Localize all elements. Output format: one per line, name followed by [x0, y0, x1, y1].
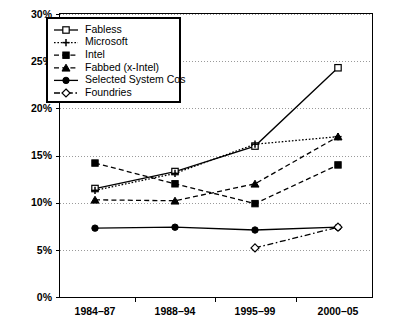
data-point-marker — [92, 225, 98, 231]
y-axis-tick-label: 15% — [31, 149, 53, 161]
data-point-marker — [172, 224, 178, 230]
x-axis-tick-label: 2000–05 — [318, 305, 359, 317]
chart-container: 0%5%10%15%20%25%30% 1984–871988–941995–9… — [0, 0, 399, 328]
x-axis-tick-label: 1995–99 — [235, 305, 276, 317]
line-chart: 0%5%10%15%20%25%30% 1984–871988–941995–9… — [0, 0, 399, 328]
data-point-marker — [252, 227, 258, 233]
x-axis-tick-label: 1984–87 — [75, 305, 116, 317]
y-axis-tick-label: 10% — [31, 196, 53, 208]
data-point-marker — [172, 181, 178, 187]
legend-item-label: Intel — [85, 48, 105, 60]
legend-item-label: Fabless — [85, 23, 122, 35]
legend-item-label: Fabbed (x-Intel) — [85, 61, 159, 73]
legend-marker-sample — [63, 52, 69, 58]
chart-legend: FablessMicrosoftIntelFabbed (x-Intel)Sel… — [47, 18, 185, 102]
y-axis-tick-label: 0% — [37, 291, 53, 303]
data-point-marker — [92, 160, 98, 166]
legend-marker-sample — [63, 77, 69, 83]
x-axis-tick-label: 1988–94 — [155, 305, 196, 317]
data-point-marker — [335, 65, 341, 71]
data-point-marker — [335, 162, 341, 168]
legend-item-label: Selected System Cos — [85, 73, 185, 85]
legend-item-label: Microsoft — [85, 35, 128, 47]
legend-item-label: Foundries — [85, 86, 132, 98]
y-axis-tick-label: 20% — [31, 102, 53, 114]
legend-marker-sample — [63, 27, 69, 33]
y-axis-tick-label: 5% — [37, 244, 53, 256]
data-point-marker — [252, 200, 258, 206]
